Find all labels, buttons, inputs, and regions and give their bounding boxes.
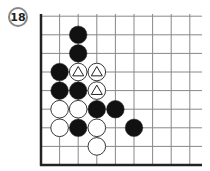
black-stone: [51, 82, 69, 100]
white-stone: [69, 63, 87, 81]
white-stone: [69, 100, 87, 118]
white-stone: [88, 82, 106, 100]
white-stone: [51, 100, 69, 118]
go-board: [0, 0, 210, 171]
black-stone: [51, 63, 69, 81]
white-stone: [88, 119, 106, 137]
black-stone: [88, 100, 106, 118]
black-stone: [125, 119, 143, 137]
black-stone: [69, 82, 87, 100]
black-stone: [69, 45, 87, 63]
black-stone: [107, 100, 125, 118]
white-stone: [51, 119, 69, 137]
white-stone: [88, 138, 106, 156]
black-stone: [69, 119, 87, 137]
white-stone: [88, 63, 106, 81]
black-stone: [69, 26, 87, 44]
